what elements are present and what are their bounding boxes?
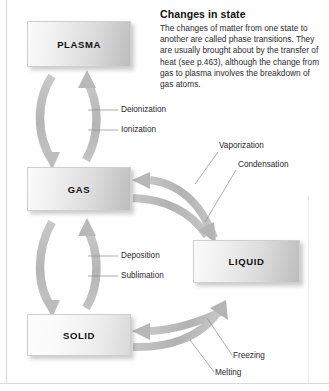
state-box-liquid[interactable]: LIQUID [193,240,300,283]
state-label-gas: GAS [68,184,90,195]
arrow-deionization [40,76,60,170]
transition-label-freezing: Freezing [233,351,265,360]
diagram-page: PLASMA GAS LIQUID SOLID Deionization Ion… [0,0,329,391]
transition-label-melting: Melting [215,368,241,377]
arrow-melting [133,300,228,347]
transition-label-vaporization: Vaporization [219,141,264,150]
state-label-solid: SOLID [63,330,95,341]
state-label-plasma: PLASMA [57,39,101,50]
state-box-gas[interactable]: GAS [27,167,131,211]
leader-melting [190,340,214,372]
transition-label-ionization: Ionization [121,125,156,134]
transition-label-deposition: Deposition [121,251,160,260]
state-label-liquid: LIQUID [229,256,265,267]
arrow-freezing [132,310,225,340]
leader-condensation [205,170,236,222]
arrow-ionization [78,70,97,160]
state-box-plasma[interactable]: PLASMA [27,21,131,67]
arrow-deposition [40,222,60,318]
arrow-condensation [133,198,216,243]
transition-label-sublimation: Sublimation [121,271,164,280]
page-rule-right [308,196,309,384]
note-body: The changes of matter from one state to … [160,23,322,90]
state-box-solid[interactable]: SOLID [27,314,131,356]
note-heading: Changes in state [160,8,322,20]
arrow-vaporization [132,172,214,238]
note-block: Changes in state The changes of matter f… [160,8,322,90]
leader-vaporization [195,152,218,184]
page-rule-bottom [0,383,329,384]
leader-freezing [207,318,232,355]
transition-label-condensation: Condensation [238,160,289,169]
page-rule-left [6,0,7,384]
arrow-sublimation [78,218,97,308]
transition-label-deionization: Deionization [121,105,166,114]
